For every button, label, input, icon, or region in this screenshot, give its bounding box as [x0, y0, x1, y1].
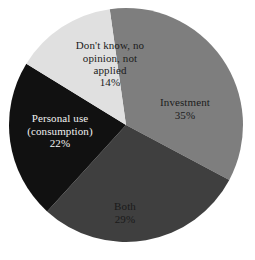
pie-chart-canvas — [0, 0, 255, 260]
pie-chart: Investment 35% Both 29% Personal use (co… — [0, 0, 255, 260]
pie-slice-group — [9, 8, 243, 242]
